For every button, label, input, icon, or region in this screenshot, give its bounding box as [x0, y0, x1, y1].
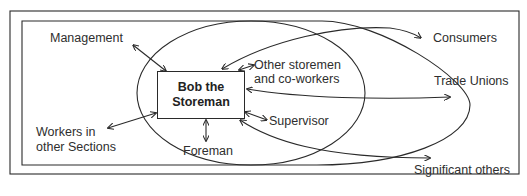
label-workers-line2: other Sections [36, 140, 116, 155]
label-significant-others: Significant others [414, 163, 510, 178]
arrow-supervisor [245, 112, 267, 120]
label-foreman: Foreman [183, 144, 233, 159]
center-node-bob: Bob the Storeman [157, 71, 245, 119]
arrow-other-storemen [239, 65, 254, 70]
label-workers-line1: Workers in [36, 125, 116, 140]
label-other-storemen-line1: Other storemen [254, 58, 341, 72]
label-supervisor: Supervisor [269, 114, 329, 129]
label-workers: Workers in other Sections [36, 125, 116, 155]
label-consumers: Consumers [433, 31, 497, 46]
label-trade-unions: Trade Unions [434, 74, 509, 89]
label-other-storemen: Other storemen and co-workers [254, 58, 341, 86]
center-line1: Bob the [178, 80, 225, 95]
label-management: Management [50, 31, 123, 46]
label-other-storemen-line2: and co-workers [254, 72, 341, 86]
arrow-trade-unions [247, 89, 450, 98]
center-line2: Storeman [172, 95, 230, 110]
